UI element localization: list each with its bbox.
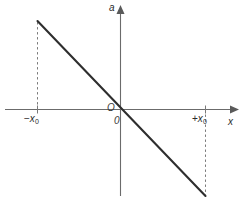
tick-label-positive-subscript: 0	[203, 118, 207, 125]
y-axis	[117, 5, 125, 196]
y-axis-label: a	[109, 3, 115, 13]
x-axis-label: x	[228, 117, 233, 127]
x-axis-arrowhead	[230, 106, 239, 114]
tick-label-negative-subscript: 0	[35, 118, 39, 125]
acceleration-vs-displacement-figure: a x −x0 +x0 O 0	[0, 0, 245, 209]
y-axis-arrowhead	[117, 5, 125, 14]
tick-label-negative-x0: −x0	[24, 114, 39, 124]
tick-label-positive-x0: +x0	[192, 114, 207, 124]
origin-zero-label: 0	[114, 116, 120, 126]
data-line-acceleration	[38, 21, 206, 196]
graph-canvas	[0, 0, 245, 209]
origin-label: O	[107, 103, 115, 113]
